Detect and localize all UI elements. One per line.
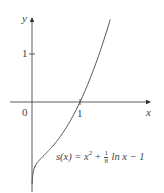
- formula-rhs: ln x − 1: [109, 151, 145, 162]
- x-axis-label: x: [146, 107, 151, 118]
- fraction-denominator: 8: [104, 158, 108, 164]
- function-annotation: s(x) = x2 + 18 ln x − 1: [56, 150, 145, 164]
- x-tick-label-1: 1: [77, 108, 83, 119]
- y-tick-label-1: 1: [22, 48, 28, 59]
- formula-plus: +: [92, 151, 103, 162]
- plot-canvas: [0, 0, 164, 193]
- formula-lhs: s(x) = x: [56, 151, 89, 162]
- formula-fraction: 18: [104, 150, 108, 164]
- y-axis-label: y: [22, 13, 27, 24]
- origin-label: 0: [22, 107, 28, 118]
